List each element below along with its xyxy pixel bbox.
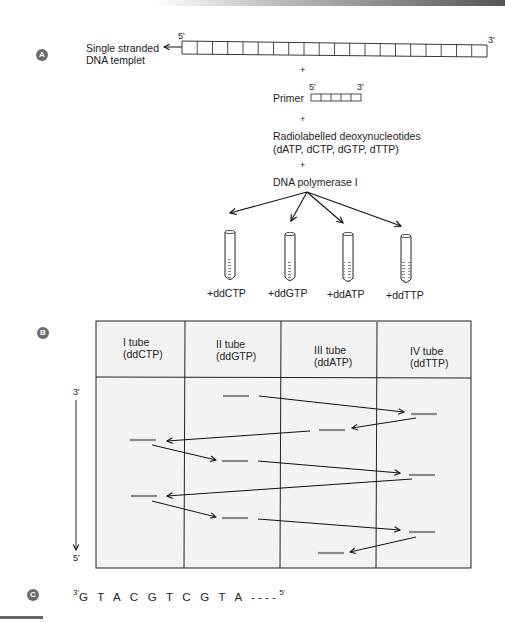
axis-5-prime: 5' (73, 552, 80, 564)
template-strand (164, 41, 487, 57)
column-header-tube-1-reagent: (ddCTP) (123, 348, 163, 360)
column-header-tube-2-reagent: (ddGTP) (216, 350, 256, 362)
page-bottom-rule (0, 616, 43, 619)
sequence-5-prime: 5' (279, 588, 285, 597)
column-header-tube-3-reagent: (ddATP) (314, 356, 352, 368)
branch-arrows (230, 192, 401, 226)
diagram-graphics (0, 0, 505, 622)
axis-3-prime: 3' (73, 386, 80, 398)
column-header-tube-3: III tube (ddATP) (314, 344, 352, 368)
sequence-readout: 3'G T A C G T C G T A ----5' (73, 588, 285, 603)
test-tube-ddttp (401, 234, 411, 282)
column-header-tube-4: IV tube (ddTTP) (410, 345, 449, 369)
column-header-tube-2: II tube (ddGTP) (216, 338, 256, 362)
column-header-tube-1: I tube (ddCTP) (123, 336, 163, 360)
column-header-tube-3-name: III tube (314, 344, 352, 356)
primer-strand (311, 94, 361, 101)
test-tube-ddgtp (285, 232, 295, 280)
column-header-tube-2-name: II tube (216, 338, 256, 350)
test-tube-ddctp (225, 230, 235, 279)
column-header-tube-4-name: IV tube (410, 345, 449, 357)
test-tube-ddatp (343, 232, 353, 281)
column-header-tube-1-name: I tube (123, 336, 163, 348)
column-header-tube-4-reagent: (ddTTP) (410, 357, 449, 369)
sequence-bases: G T A C G T C G T A ---- (79, 591, 279, 603)
